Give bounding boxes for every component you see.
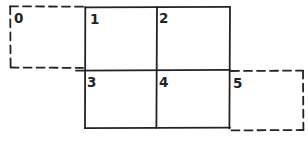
cell-label-4: 4 (159, 74, 168, 90)
grid-middle-vertical (156, 7, 157, 128)
figure-canvas: 0 1 2 3 4 5 (0, 0, 308, 141)
cell-label-1: 1 (90, 11, 99, 27)
hand-drawn-grid-figure: 0 1 2 3 4 5 (0, 0, 308, 141)
cell-label-0: 0 (14, 10, 23, 26)
cell-label-3: 3 (87, 74, 96, 90)
grid-right-edge (229, 7, 230, 129)
grid-middle-horizontal (76, 70, 230, 71)
grid-bottom-edge (85, 128, 230, 129)
cell-label-2: 2 (159, 10, 168, 26)
cell-label-5: 5 (233, 75, 242, 91)
